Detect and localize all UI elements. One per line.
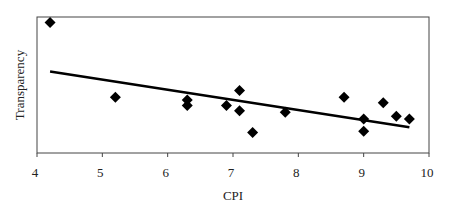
data-point-diamond (234, 85, 245, 96)
data-point-diamond (404, 114, 415, 125)
data-points (45, 17, 415, 138)
x-axis-ticks (37, 153, 429, 157)
data-point-diamond (391, 111, 402, 122)
data-point-diamond (339, 92, 350, 103)
trendline-line (50, 71, 409, 127)
x-axis-title: CPI (223, 188, 243, 203)
data-point-diamond (221, 100, 232, 111)
x-tick-label: 10 (421, 165, 434, 180)
data-point-diamond (45, 17, 56, 28)
x-tick-label: 7 (228, 165, 235, 180)
x-axis-tick-labels: 45678910 (32, 165, 434, 180)
x-tick-label: 9 (358, 165, 365, 180)
y-axis-title: Transparency (12, 49, 27, 120)
scatter-chart: 45678910 CPI Transparency (0, 0, 449, 215)
data-point-diamond (234, 105, 245, 116)
x-tick-label: 6 (162, 165, 169, 180)
plot-area (37, 17, 429, 153)
x-tick-label: 5 (97, 165, 104, 180)
x-tick-label: 4 (32, 165, 39, 180)
data-point-diamond (358, 114, 369, 125)
data-point-diamond (110, 92, 121, 103)
data-point-diamond (247, 127, 258, 138)
trendline (50, 71, 409, 127)
data-point-diamond (358, 126, 369, 137)
data-point-diamond (378, 97, 389, 108)
x-tick-label: 8 (293, 165, 300, 180)
